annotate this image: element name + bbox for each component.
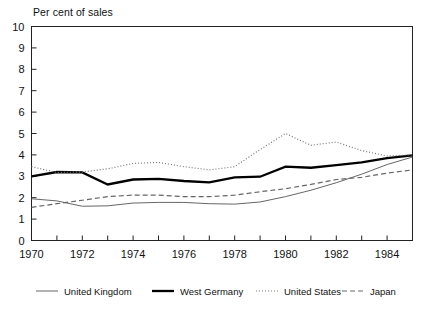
- y-axis-tick-label: 7: [18, 85, 24, 97]
- y-axis-tick-labels: 012345678910: [12, 21, 24, 247]
- line-chart-plot: 012345678910 197019721974197619781980198…: [0, 0, 433, 310]
- y-axis-tick-label: 8: [18, 63, 24, 75]
- y-axis-tick-label: 6: [18, 106, 24, 118]
- y-axis-tick-label: 2: [18, 192, 24, 204]
- legend-label-united-kingdom: United Kingdom: [64, 286, 132, 297]
- legend-label-united-states: United States: [284, 286, 341, 297]
- chart-figure: Per cent of sales 012345678910 197019721…: [0, 0, 433, 310]
- y-axis-tick-label: 9: [18, 42, 24, 54]
- x-axis-tick-label: 1974: [121, 248, 145, 260]
- legend-label-west-germany: West Germany: [180, 286, 243, 297]
- x-axis-tick-label: 1982: [324, 248, 348, 260]
- chart-title: Per cent of sales: [33, 6, 113, 18]
- x-axis-tick-label: 1978: [222, 248, 246, 260]
- y-axis-tick-label: 3: [18, 170, 24, 182]
- chart-legend: United KingdomWest GermanyUnited StatesJ…: [36, 286, 396, 297]
- x-axis-tick-label: 1976: [172, 248, 196, 260]
- y-axis-tick-label: 4: [18, 149, 24, 161]
- y-axis-tick-label: 10: [12, 21, 24, 33]
- y-axis-tick-label: 0: [18, 235, 24, 247]
- x-axis-tick-label: 1972: [70, 248, 94, 260]
- x-axis-tick-label: 1970: [19, 248, 43, 260]
- x-axis-tick-label: 1984: [375, 248, 399, 260]
- y-axis-tick-label: 1: [18, 213, 24, 225]
- y-axis-tick-label: 5: [18, 128, 24, 140]
- x-axis-tick-label: 1980: [273, 248, 297, 260]
- plot-area-frame: [32, 27, 413, 241]
- x-axis-tick-labels: 19701972197419761978198019821984: [19, 248, 399, 260]
- legend-label-japan: Japan: [370, 286, 396, 297]
